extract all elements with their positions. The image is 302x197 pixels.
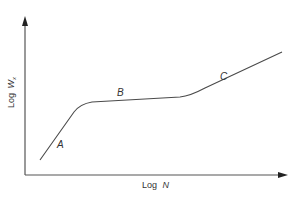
diagram-canvas: A B C Log N Log Wx bbox=[0, 0, 302, 197]
y-axis-label-prefix: Log bbox=[6, 90, 16, 108]
response-curve bbox=[40, 52, 282, 160]
y-axis-arrow-icon bbox=[22, 16, 28, 26]
x-axis-label-var: N bbox=[163, 180, 170, 190]
log-log-diagram: A B C Log N Log Wx bbox=[0, 0, 302, 197]
y-axis-label: Log Wx bbox=[6, 76, 17, 108]
x-axis-label-prefix: Log bbox=[142, 180, 160, 190]
y-axis-label-sub: x bbox=[11, 76, 17, 81]
segment-label-b: B bbox=[117, 87, 124, 98]
x-axis-arrow-icon bbox=[278, 172, 288, 178]
segment-label-c: C bbox=[220, 71, 228, 82]
x-axis-label: Log N bbox=[142, 180, 170, 190]
segment-label-a: A bbox=[56, 139, 64, 150]
